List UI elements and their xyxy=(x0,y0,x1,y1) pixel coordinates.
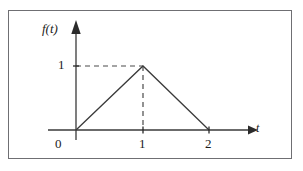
y-axis-arrowhead xyxy=(71,20,80,34)
x-tick-label-1: 1 xyxy=(139,137,146,150)
y-tick-label-1: 1 xyxy=(58,58,65,71)
figure-container: f(t) t 1 0 1 2 xyxy=(0,0,303,171)
y-axis-label: f(t) xyxy=(42,22,58,35)
x-tick-label-0: 0 xyxy=(55,137,62,150)
x-tick-label-2: 2 xyxy=(205,137,212,150)
x-axis-label: t xyxy=(256,122,259,134)
